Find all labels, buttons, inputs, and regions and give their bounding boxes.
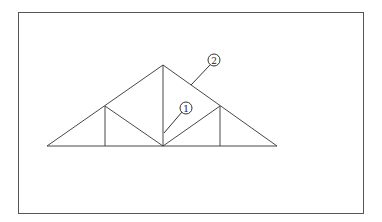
right-diagonal-web [163, 106, 220, 146]
diagram-frame [19, 13, 364, 214]
callout-1-leader [164, 112, 182, 133]
truss [47, 65, 277, 146]
callout-2: 2 [191, 54, 220, 85]
truss-diagram: 1 2 [0, 0, 382, 222]
callout-2-leader [191, 65, 210, 85]
callout-1-label: 1 [183, 104, 189, 114]
callout-2-label: 2 [211, 56, 217, 66]
left-diagonal-web [105, 106, 163, 146]
